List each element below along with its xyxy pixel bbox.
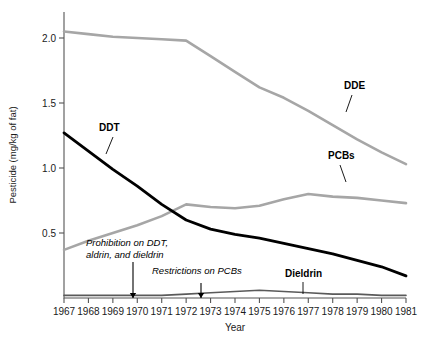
annotation-restrictions-pcbs: Restrictions on PCBs <box>152 265 242 276</box>
x-axis-tick-label: 1979 <box>346 306 369 317</box>
x-axis-tick-label: 1968 <box>77 306 100 317</box>
x-axis-tick-label: 1969 <box>102 306 125 317</box>
x-axis-tick-label: 1975 <box>248 306 271 317</box>
x-axis-title: Year <box>225 322 246 333</box>
series-label-dde: DDE <box>344 80 365 91</box>
series-leader-ddt <box>106 137 113 154</box>
series-label-pcbs: PCBs <box>328 150 355 161</box>
x-axis-tick-label: 1976 <box>273 306 296 317</box>
chart-canvas: 0.51.01.52.0Pesticide (mg/kg of fat)1967… <box>0 0 437 337</box>
y-axis-title: Pesticide (mg/kg of fat) <box>7 106 18 203</box>
x-axis-tick-label: 1980 <box>370 306 393 317</box>
series-leader-dde <box>346 95 352 112</box>
y-axis-tick-label: 0.5 <box>42 228 56 239</box>
x-axis-tick-label: 1971 <box>151 306 174 317</box>
x-axis-tick-label: 1981 <box>395 306 418 317</box>
x-axis-tick-label: 1970 <box>126 306 149 317</box>
x-axis-tick-label: 1967 <box>53 306 76 317</box>
x-axis-tick-label: 1973 <box>199 306 222 317</box>
series-line-dieldrin <box>64 290 406 295</box>
x-axis-tick-label: 1972 <box>175 306 198 317</box>
annotation-arrowhead-restrictions-pcbs <box>198 293 204 298</box>
annotation-prohibition-ddt: Prohibition on DDT, <box>86 237 168 248</box>
y-axis-tick-label: 2.0 <box>42 33 56 44</box>
x-axis-tick-label: 1977 <box>297 306 320 317</box>
y-axis-tick-label: 1.0 <box>42 163 56 174</box>
series-label-ddt: DDT <box>99 122 120 133</box>
x-axis-tick-label: 1978 <box>322 306 345 317</box>
series-leader-pcbs <box>340 165 346 182</box>
annotation-prohibition-ddt: aldrin, and dieldrin <box>86 249 164 260</box>
x-axis-tick-label: 1974 <box>224 306 247 317</box>
series-label-dieldrin: Dieldrin <box>285 268 322 279</box>
series-line-dde <box>64 32 406 165</box>
pesticide-trend-chart: 0.51.01.52.0Pesticide (mg/kg of fat)1967… <box>0 0 437 337</box>
y-axis-tick-label: 1.5 <box>42 98 56 109</box>
